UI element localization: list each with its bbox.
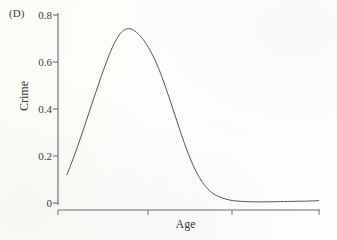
crime-density-curve bbox=[67, 29, 319, 202]
x-axis-title: Age bbox=[0, 217, 337, 232]
plot-area bbox=[0, 0, 337, 240]
figure-panel-d: (D) 0.8 0.6 0.4 0.2 0 Crime Age bbox=[0, 0, 337, 240]
y-axis-ticks bbox=[53, 15, 58, 203]
x-axis-ticks bbox=[58, 210, 319, 215]
